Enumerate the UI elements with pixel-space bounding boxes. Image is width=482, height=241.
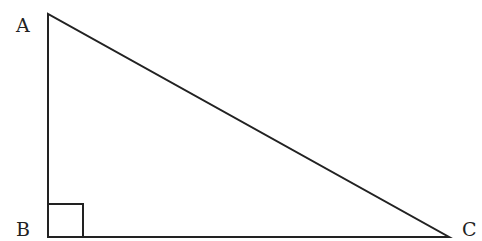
right-angle-marker [48, 204, 83, 237]
triangle-abc [48, 14, 449, 237]
vertex-label-a: A [16, 14, 30, 36]
triangle-diagram [0, 0, 482, 241]
vertex-label-b: B [16, 218, 30, 240]
vertex-label-c: C [462, 218, 477, 240]
